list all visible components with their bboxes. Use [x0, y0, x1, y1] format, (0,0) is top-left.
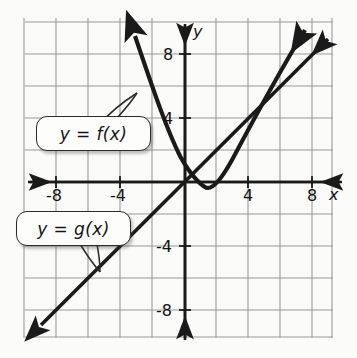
x-axis-name: x: [329, 185, 338, 204]
callout-label-f: y = f(x): [36, 116, 151, 151]
callout-label-g: y = g(x): [16, 211, 131, 246]
x-tick-label-minus-4: -4: [110, 186, 126, 205]
y-tick-label-minus-4: -4: [156, 237, 172, 256]
graph-figure: -8 -4 4 8 8 4 -4 -8 x y y = f(x) y = g(x…: [0, 0, 357, 358]
x-tick-label-8: 8: [307, 186, 317, 205]
x-tick-label-minus-8: -8: [46, 186, 62, 205]
x-tick-label-4: 4: [243, 186, 253, 205]
y-tick-label-4: 4: [163, 109, 173, 128]
y-tick-label-minus-8: -8: [156, 301, 172, 320]
y-tick-label-8: 8: [163, 45, 173, 64]
y-axis-name: y: [193, 22, 202, 41]
coordinate-plane: [0, 0, 357, 358]
plot-background: [25, 18, 333, 338]
